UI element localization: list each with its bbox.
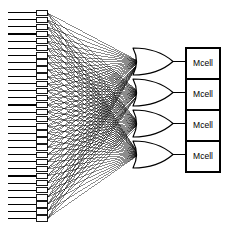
mcell-label: Mcell — [193, 89, 213, 99]
input-cell — [36, 152, 47, 157]
input-cell — [36, 166, 47, 171]
or-gate — [133, 79, 173, 106]
or-gate — [133, 110, 173, 137]
fan-in-line — [47, 112, 139, 123]
fan-in-line — [47, 48, 139, 154]
input-column — [8, 10, 47, 221]
input-cell — [36, 24, 47, 29]
input-cell — [36, 46, 47, 51]
fan-in-line — [47, 34, 139, 62]
input-cell — [36, 173, 47, 178]
input-cell — [36, 67, 47, 72]
fan-in-line — [47, 20, 139, 62]
input-cell — [36, 53, 47, 58]
fan-in-line — [47, 155, 139, 191]
input-cell — [36, 95, 47, 100]
input-cell — [36, 124, 47, 129]
mcell-convergence-diagram: McellMcellMcellMcell — [0, 0, 227, 231]
input-cell — [36, 202, 47, 207]
or-gate — [133, 141, 173, 168]
input-cell — [36, 81, 47, 86]
input-cell — [36, 17, 47, 22]
input-cell — [36, 195, 47, 200]
input-cell — [36, 159, 47, 164]
fan-in-line — [47, 62, 139, 63]
or-gate — [133, 48, 173, 75]
mcell-label: Mcell — [193, 120, 213, 130]
input-cell — [36, 209, 47, 214]
mcell-label: Mcell — [193, 151, 213, 161]
input-cell — [36, 10, 47, 15]
diagram-canvas: McellMcellMcellMcell — [0, 0, 227, 231]
input-cell — [36, 60, 47, 65]
input-cell — [36, 180, 47, 185]
input-cell — [36, 216, 47, 221]
input-cell — [36, 74, 47, 79]
input-cell — [36, 38, 47, 43]
fan-in-line-group — [47, 13, 139, 219]
input-cell — [36, 145, 47, 150]
input-cell — [36, 188, 47, 193]
mcell-label: Mcell — [193, 58, 213, 68]
input-cell — [36, 109, 47, 114]
input-cell — [36, 117, 47, 122]
fan-in-line — [47, 93, 139, 98]
input-cell — [36, 131, 47, 136]
input-cell — [36, 88, 47, 93]
fan-in-line — [47, 124, 139, 177]
input-cell — [36, 138, 47, 143]
fan-in-line — [47, 13, 139, 62]
input-cell — [36, 102, 47, 107]
input-cell — [36, 31, 47, 36]
mcell-box-group: McellMcellMcellMcell — [186, 48, 220, 172]
or-gate-group — [133, 48, 186, 168]
